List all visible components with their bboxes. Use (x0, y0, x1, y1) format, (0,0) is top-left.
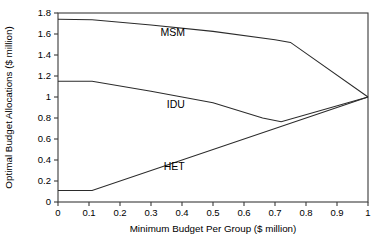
x-axis-title: Minimum Budget Per Group ($ million) (130, 223, 297, 234)
y-tick-label: 1.2 (38, 70, 51, 81)
x-tick-label: 0.2 (113, 207, 126, 218)
series-line-msm (58, 19, 368, 97)
y-tick-label: 0.4 (38, 154, 51, 165)
y-axis-title: Optimal Budget Allocations ($ million) (3, 26, 14, 188)
series-label-idu: IDU (167, 98, 185, 110)
x-tick-label: 1 (365, 207, 370, 218)
x-tick-label: 0.4 (175, 207, 188, 218)
y-tick-label: 0.6 (38, 133, 51, 144)
x-tick-label: 0.8 (299, 207, 312, 218)
y-tick-label: 1.8 (38, 7, 51, 18)
x-tick-label: 0.9 (330, 207, 343, 218)
y-tick-label: 1 (46, 91, 51, 102)
x-tick-label: 0.6 (237, 207, 250, 218)
y-tick-label: 0.2 (38, 175, 51, 186)
x-tick-label: 0 (55, 207, 60, 218)
series-label-het: HET (164, 160, 186, 172)
y-tick-label: 1.4 (38, 49, 51, 60)
series-line-het (58, 97, 368, 190)
y-tick-label: 0 (46, 196, 51, 207)
plot-frame (58, 13, 368, 202)
x-tick-label: 0.1 (82, 207, 95, 218)
y-tick-label: 0.8 (38, 112, 51, 123)
y-tick-label: 1.6 (38, 28, 51, 39)
chart-figure: 00.10.20.30.40.50.60.70.80.9100.20.40.60… (0, 0, 385, 244)
x-tick-label: 0.7 (268, 207, 281, 218)
x-tick-label: 0.5 (206, 207, 219, 218)
x-tick-label: 0.3 (144, 207, 157, 218)
line-chart: 00.10.20.30.40.50.60.70.80.9100.20.40.60… (0, 0, 385, 244)
series-line-idu (58, 81, 368, 121)
series-label-msm: MSM (160, 26, 185, 38)
